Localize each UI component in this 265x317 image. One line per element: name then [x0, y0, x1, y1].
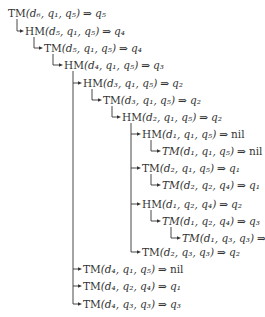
node-operator: HM — [64, 59, 84, 71]
node-arguments: (d₃, q₁, q₅) — [121, 94, 175, 106]
tree-node: HM(d₁, q₂, q₄)⇒q₂ — [142, 197, 242, 211]
tree-node: HM(d₂, q₁, q₅)⇒q₂ — [122, 110, 222, 124]
node-arguments: (d₁, q₃, q₃) — [200, 232, 254, 244]
node-operator: TM — [162, 215, 180, 227]
tree-node: TM(d₂, q₃, q₃)⇒q₂ — [142, 245, 240, 259]
implies-arrow-icon: ⇒ — [158, 298, 167, 310]
node-operator: TM — [83, 280, 101, 292]
tree-node: TM(d₁, q₃, q₃)⇒q₂ — [182, 231, 265, 245]
arrowhead-icon — [39, 46, 43, 50]
node-result: q₂ — [231, 198, 242, 210]
arrowhead-icon — [20, 29, 24, 33]
node-arguments: (d₄, q₁, q₅) — [101, 263, 155, 275]
node-arguments: (d₂, q₁, q₅) — [142, 111, 196, 123]
arrowhead-icon — [157, 183, 161, 187]
implies-arrow-icon: ⇒ — [102, 25, 111, 37]
node-operator: HM — [25, 25, 45, 37]
arrowhead-icon — [98, 98, 102, 102]
tree-node: HM(d₄, q₁, q₅)⇒q₃ — [64, 58, 164, 72]
node-operator: TM — [103, 94, 121, 106]
node-result: q₃ — [153, 59, 164, 71]
arrowhead-icon — [78, 302, 82, 306]
tree-node: TM(d₄, q₃, q₃)⇒q₃ — [83, 297, 181, 311]
tree-node: TM(d₄, q₂, q₄)⇒q₁ — [83, 279, 181, 293]
node-arguments: (d₅, q₁, q₅) — [45, 25, 99, 37]
tree-node: TM(d₂, q₂, q₄)⇒q₁ — [162, 178, 260, 192]
tree-node: TM(d₆, q₁, q₅)⇒q₅ — [8, 6, 106, 20]
implies-arrow-icon: ⇒ — [83, 7, 92, 19]
node-result: nil — [249, 145, 262, 157]
arrowhead-icon — [157, 149, 161, 153]
implies-arrow-icon: ⇒ — [160, 77, 169, 89]
node-arguments: (d₂, q₃, q₃) — [160, 246, 214, 258]
implies-arrow-icon: ⇒ — [217, 246, 226, 258]
node-result: q₂ — [229, 246, 240, 258]
node-operator: TM — [83, 263, 101, 275]
node-operator: HM — [142, 198, 162, 210]
implies-arrow-icon: ⇒ — [237, 215, 246, 227]
tree-node: HM(d₅, q₁, q₅)⇒q₄ — [25, 24, 125, 38]
tree-node: HM(d₃, q₁, q₅)⇒q₂ — [83, 76, 183, 90]
node-operator: HM — [142, 128, 162, 140]
tree-node: TM(d₁, q₂, q₄)⇒q₃ — [162, 214, 260, 228]
implies-arrow-icon: ⇒ — [217, 162, 226, 174]
tree-node: TM(d₄, q₁, q₅)⇒nil — [83, 262, 183, 276]
node-arguments: (d₅, q₁, q₅) — [62, 42, 116, 54]
node-result: q₅ — [95, 7, 106, 19]
node-operator: TM — [162, 179, 180, 191]
tree-node: TM(d₅, q₁, q₅)⇒q₄ — [44, 41, 142, 55]
tree-node: TM(d₁, q₁, q₅)⇒nil — [162, 144, 262, 158]
tree-node: TM(d₂, q₁, q₅)⇒q₁ — [142, 161, 240, 175]
node-arguments: (d₁, q₂, q₄) — [180, 215, 234, 227]
implies-arrow-icon: ⇒ — [257, 232, 265, 244]
node-arguments: (d₄, q₂, q₄) — [101, 280, 155, 292]
implies-arrow-icon: ⇒ — [141, 59, 150, 71]
tree-node: HM(d₁, q₁, q₅)⇒nil — [142, 127, 245, 141]
tree-node: TM(d₃, q₁, q₅)⇒q₂ — [103, 93, 201, 107]
implies-arrow-icon: ⇒ — [237, 145, 246, 157]
node-result: q₄ — [131, 42, 142, 54]
node-result: q₃ — [249, 215, 260, 227]
node-result: q₁ — [229, 162, 240, 174]
node-result: q₁ — [170, 280, 181, 292]
arrowhead-icon — [157, 219, 161, 223]
implies-arrow-icon: ⇒ — [199, 111, 208, 123]
arrowhead-icon — [78, 267, 82, 271]
implies-arrow-icon: ⇒ — [178, 94, 187, 106]
node-result: q₂ — [172, 77, 183, 89]
node-arguments: (d₄, q₁, q₅) — [84, 59, 138, 71]
implies-arrow-icon: ⇒ — [158, 263, 167, 275]
node-arguments: (d₃, q₁, q₅) — [103, 77, 157, 89]
node-arguments: (d₂, q₂, q₄) — [180, 179, 234, 191]
arrowhead-icon — [137, 166, 141, 170]
arrowhead-icon — [78, 81, 82, 85]
implies-arrow-icon: ⇒ — [237, 179, 246, 191]
arrowhead-icon — [78, 284, 82, 288]
node-operator: TM — [142, 246, 160, 258]
node-arguments: (d₁, q₁, q₅) — [180, 145, 234, 157]
arrowhead-icon — [137, 250, 141, 254]
node-result: nil — [170, 263, 183, 275]
node-operator: HM — [122, 111, 142, 123]
node-operator: TM — [8, 7, 26, 19]
node-arguments: (d₁, q₂, q₄) — [162, 198, 216, 210]
node-operator: TM — [162, 145, 180, 157]
node-result: q₂ — [190, 94, 201, 106]
node-arguments: (d₂, q₁, q₅) — [160, 162, 214, 174]
node-result: q₂ — [211, 111, 222, 123]
node-operator: TM — [44, 42, 62, 54]
node-result: q₃ — [170, 298, 181, 310]
node-result: q₁ — [249, 179, 260, 191]
node-arguments: (d₁, q₁, q₅) — [162, 128, 216, 140]
implies-arrow-icon: ⇒ — [119, 42, 128, 54]
node-operator: TM — [142, 162, 160, 174]
node-operator: TM — [83, 298, 101, 310]
implies-arrow-icon: ⇒ — [158, 280, 167, 292]
node-operator: HM — [83, 77, 103, 89]
arrowhead-icon — [59, 63, 63, 67]
call-tree-diagram: TM(d₆, q₁, q₅)⇒q₅HM(d₅, q₁, q₅)⇒q₄TM(d₅,… — [0, 0, 265, 317]
node-result: nil — [231, 128, 244, 140]
node-result: q₄ — [114, 25, 125, 37]
arrowhead-icon — [137, 202, 141, 206]
arrowhead-icon — [117, 115, 121, 119]
